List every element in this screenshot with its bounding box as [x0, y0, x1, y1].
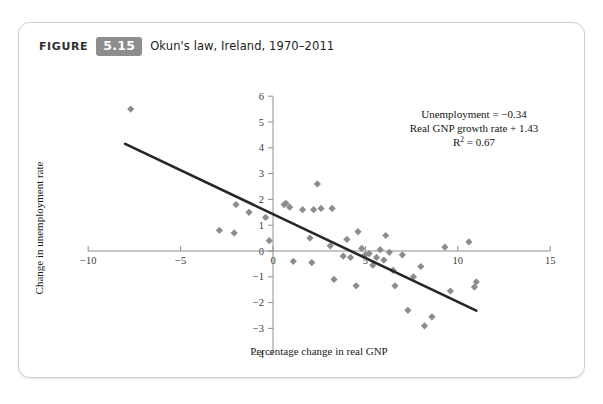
data-point: [266, 237, 273, 244]
data-point: [354, 228, 361, 235]
data-point: [382, 232, 389, 239]
x-tick-label: −10: [80, 255, 96, 266]
y-tick-label: −3: [253, 323, 264, 334]
plot-canvas: −4−3−2−10123456 −10−5051015 Unemployment…: [19, 23, 586, 379]
trend-line: [125, 144, 476, 311]
data-point: [353, 282, 360, 289]
data-point: [380, 256, 387, 263]
y-tick-label: −2: [253, 297, 264, 308]
annotation-line-1: Unemployment = −0.34: [421, 108, 527, 120]
data-point: [329, 205, 336, 212]
x-tick-label: −5: [175, 255, 186, 266]
data-point: [399, 251, 406, 258]
data-point: [216, 227, 223, 234]
data-point: [127, 106, 134, 113]
data-point: [308, 259, 315, 266]
data-point: [330, 276, 337, 283]
data-point: [299, 206, 306, 213]
annotation-line-3: R2 = 0.67: [453, 135, 496, 148]
data-point: [404, 307, 411, 314]
y-tick-label: 3: [259, 168, 264, 179]
data-point: [421, 322, 428, 329]
data-point: [373, 254, 380, 261]
y-tick-label: 2: [259, 194, 264, 205]
data-point: [441, 244, 448, 251]
data-point: [340, 253, 347, 260]
y-axis: −4−3−2−10123456: [253, 91, 273, 360]
scatter-plot: −4−3−2−10123456 −10−5051015 Unemployment…: [19, 23, 586, 379]
y-tick-label: 1: [259, 220, 264, 231]
data-point: [386, 249, 393, 256]
data-point: [306, 235, 313, 242]
x-tick-label: 10: [453, 255, 464, 266]
annotation-line-2: Real GNP growth rate + 1.43: [410, 122, 539, 134]
y-tick-label: 6: [259, 91, 264, 102]
regression-annotation: Unemployment = −0.34Real GNP growth rate…: [410, 108, 539, 148]
regression-line: [125, 144, 476, 311]
data-point: [232, 201, 239, 208]
data-point: [310, 206, 317, 213]
data-point: [245, 209, 252, 216]
data-point: [391, 282, 398, 289]
data-point: [231, 229, 238, 236]
data-point: [447, 287, 454, 294]
data-points: [127, 106, 480, 330]
data-point: [347, 254, 354, 261]
data-point: [417, 263, 424, 270]
x-tick-label: 15: [545, 255, 556, 266]
y-axis-title: Change in unemployment rate: [33, 161, 45, 294]
y-tick-label: −1: [253, 271, 264, 282]
data-point: [377, 246, 384, 253]
data-point: [314, 180, 321, 187]
x-axis-title: Percentage change in real GNP: [250, 345, 387, 357]
x-tick-label: 0: [270, 255, 275, 266]
data-point: [317, 205, 324, 212]
y-tick-label: 5: [259, 117, 264, 128]
x-axis: −10−5051015: [80, 246, 555, 266]
data-point: [428, 313, 435, 320]
data-point: [290, 258, 297, 265]
figure-card: FIGURE 5.15 Okun's law, Ireland, 1970–20…: [18, 22, 585, 378]
data-point: [343, 236, 350, 243]
data-point: [465, 238, 472, 245]
y-tick-label: 4: [259, 142, 265, 153]
